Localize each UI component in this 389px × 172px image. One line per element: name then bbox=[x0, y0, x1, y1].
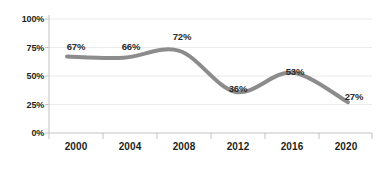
value-label-2000: 67% bbox=[67, 41, 86, 52]
x-axis-ticks bbox=[49, 133, 372, 139]
grid-lines bbox=[49, 19, 372, 105]
value-label-2008: 72% bbox=[173, 31, 192, 42]
value-label-2016: 53% bbox=[286, 66, 305, 77]
x-tick-label-2020: 2020 bbox=[335, 141, 358, 152]
y-axis-ticks bbox=[45, 19, 49, 133]
value-label-2004: 66% bbox=[122, 41, 141, 52]
value-label-2020: 27% bbox=[345, 91, 364, 102]
x-tick-label-2012: 2012 bbox=[227, 141, 250, 152]
value-label-2012: 36% bbox=[229, 83, 248, 94]
x-tick-label-2004: 2004 bbox=[119, 141, 142, 152]
x-tick-label-2000: 2000 bbox=[65, 141, 88, 152]
x-tick-label-2008: 2008 bbox=[173, 141, 196, 152]
x-tick-label-2016: 2016 bbox=[281, 141, 304, 152]
line-chart: 100% 75% 50% 25% 0% bbox=[0, 0, 389, 172]
